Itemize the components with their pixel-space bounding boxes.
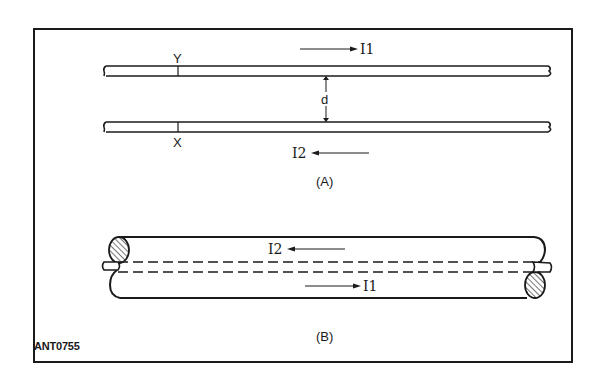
left-end-cross-section (109, 237, 129, 263)
coax-tube-outline (110, 237, 545, 298)
current-arrow-i1: I1 (300, 41, 374, 57)
current-i1-b-label: I1 (363, 278, 377, 294)
current-arrow-i2: I2 (292, 145, 369, 161)
figure-frame (34, 29, 572, 362)
diagram-canvas: Y X d I1 I2 (A) (0, 0, 603, 381)
wire-top (104, 66, 551, 76)
figure-code: ANT0755 (34, 340, 80, 352)
current-i2-b-label: I2 (268, 241, 282, 257)
right-end-cross-section (525, 272, 545, 298)
spacing-dimension: d (321, 76, 329, 122)
panel-b-label: (B) (316, 329, 333, 344)
wire-bottom (104, 122, 551, 132)
point-y-label: Y (173, 51, 182, 66)
point-x-label: X (173, 135, 182, 150)
current-arrow-i1-b: I1 (305, 278, 377, 294)
current-arrow-i2-b: I2 (268, 241, 345, 257)
panel-b: I2 I1 (B) (103, 237, 552, 344)
current-i2-label: I2 (292, 145, 306, 161)
panel-a: Y X d I1 I2 (A) (104, 41, 551, 189)
spacing-label: d (321, 92, 328, 107)
current-i1-label: I1 (360, 41, 374, 57)
panel-a-label: (A) (316, 174, 333, 189)
